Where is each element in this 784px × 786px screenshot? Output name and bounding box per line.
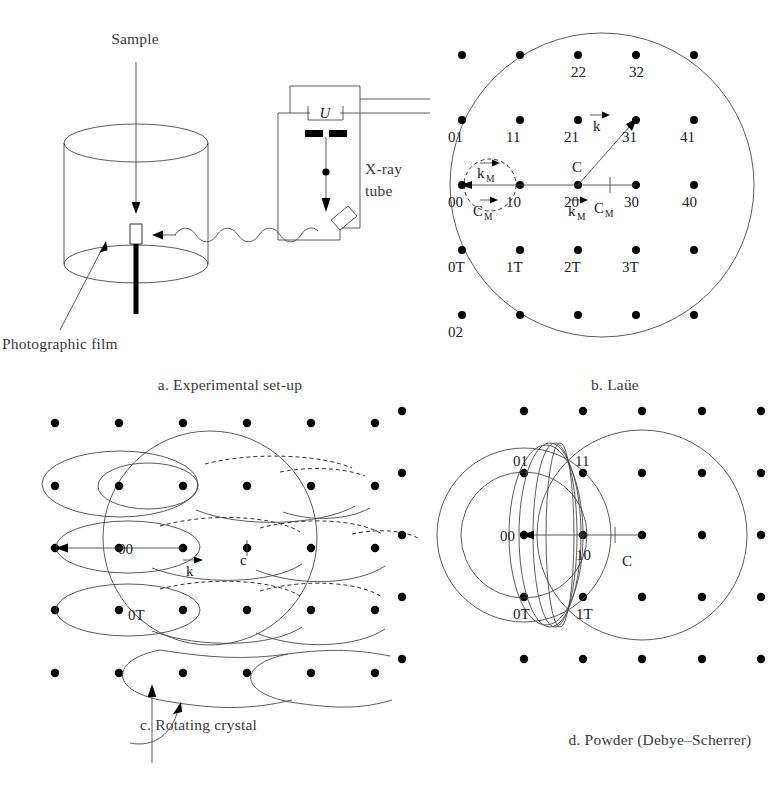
rotating-cone-row-top bbox=[42, 451, 370, 522]
laue-label-30: 30 bbox=[624, 194, 639, 210]
svg-text:M: M bbox=[486, 174, 495, 184]
sample-label: Sample bbox=[75, 30, 195, 48]
caption-panel-d: d. Powder (Debye–Scherrer) bbox=[540, 731, 780, 749]
sample-rod bbox=[134, 244, 139, 314]
film-pointer-head bbox=[100, 241, 108, 253]
rotating-cone-row-bottom bbox=[123, 650, 393, 708]
panel-powder-debye-scherrer: 01 11 00 10 0T 1T C bbox=[400, 388, 784, 786]
powder-label-00: 00 bbox=[500, 528, 515, 544]
laue-km-arrow-top-head bbox=[492, 160, 500, 167]
laue-label-02: 02 bbox=[448, 324, 463, 340]
laue-label-32: 32 bbox=[629, 64, 644, 80]
target-anode bbox=[331, 206, 357, 230]
electron-beam-head bbox=[322, 198, 331, 212]
laue-cm-arrow-head bbox=[490, 197, 498, 204]
laue-cm-label-right: C M bbox=[594, 200, 614, 219]
powder-label-centre: C bbox=[622, 553, 632, 569]
rotation-curve-arrow-head bbox=[173, 702, 182, 714]
tube-leads bbox=[360, 99, 430, 113]
sample-arrow-head bbox=[132, 202, 141, 214]
laue-label-3T: 3T bbox=[622, 259, 639, 275]
rotation-axis-arrow-head bbox=[148, 684, 157, 697]
powder-label-10: 10 bbox=[576, 547, 591, 563]
electron-dot bbox=[322, 168, 329, 175]
svg-text:k: k bbox=[568, 203, 576, 219]
svg-text:M: M bbox=[605, 209, 614, 219]
anode-plate bbox=[329, 130, 347, 137]
laue-label-31: 31 bbox=[622, 129, 637, 145]
caption-panel-c: c. Rotating crystal bbox=[140, 716, 360, 734]
panel-experimental-setup: U Sample Photographic film X-ray tube bbox=[0, 0, 440, 390]
xray-beam-arrow-head bbox=[152, 231, 163, 240]
laue-label-2T: 2T bbox=[564, 259, 581, 275]
laue-label-41: 41 bbox=[680, 129, 695, 145]
laue-k-label: k bbox=[593, 118, 601, 134]
laue-label-21: 21 bbox=[564, 129, 579, 145]
laue-label-10: 10 bbox=[506, 194, 521, 210]
laue-cm-label-left: C M bbox=[473, 203, 493, 222]
laue-label-1T: 1T bbox=[506, 259, 523, 275]
rotating-label-0T: 0T bbox=[128, 607, 145, 623]
rotating-cone-row-lower bbox=[56, 581, 385, 644]
svg-text:M: M bbox=[484, 212, 493, 222]
cathode-plate bbox=[305, 130, 323, 137]
svg-text:C: C bbox=[473, 203, 483, 219]
powder-label-01: 01 bbox=[513, 453, 528, 469]
rotating-k-label-arrow-head bbox=[194, 556, 203, 563]
laue-label-0T: 0T bbox=[448, 259, 465, 275]
svg-text:k: k bbox=[477, 165, 485, 181]
rotating-label-centre: c bbox=[240, 552, 247, 568]
laue-centre-label: C bbox=[572, 159, 582, 175]
powder-label-1T: 1T bbox=[576, 606, 593, 622]
voltage-label: U bbox=[320, 105, 332, 121]
svg-text:M: M bbox=[577, 212, 586, 222]
laue-label-40: 40 bbox=[682, 194, 697, 210]
caption-panel-a: a. Experimental set-up bbox=[110, 376, 350, 394]
laue-label-01: 01 bbox=[448, 129, 463, 145]
powder-label-0T: 0T bbox=[513, 606, 530, 622]
laue-km2-arrow-head bbox=[580, 197, 588, 204]
photographic-film-label: Photographic film bbox=[2, 335, 172, 353]
laue-km-label-top: k M bbox=[477, 165, 495, 184]
panel-laue: 22 22 32 01 11 21 31 41 00 10 20 30 40 0… bbox=[430, 0, 784, 390]
powder-label-11: 11 bbox=[575, 453, 589, 469]
laue-label-00: 00 bbox=[448, 194, 463, 210]
rotating-label-k: k bbox=[186, 563, 194, 579]
rotating-label-00: 00 bbox=[118, 541, 133, 557]
xray-tube-label-line2: tube bbox=[365, 182, 435, 200]
caption-panel-b: b. Laüe bbox=[545, 376, 685, 394]
sample-holder bbox=[130, 224, 142, 244]
laue-k-arrow-head bbox=[602, 112, 610, 119]
laue-label-22: 22 bbox=[571, 64, 586, 80]
xray-tube-label-line1: X-ray bbox=[365, 160, 435, 178]
rotating-cone-row-middle bbox=[56, 517, 418, 581]
svg-text:C: C bbox=[594, 200, 604, 216]
laue-label-11: 11 bbox=[506, 129, 520, 145]
